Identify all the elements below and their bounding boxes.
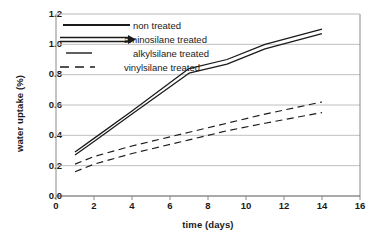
legend-label-aminosilane-treated: aminosilane treated <box>124 34 207 45</box>
legend-swatches <box>60 25 136 67</box>
legend-label-alkylsilane-treated: alkylsilane treated <box>133 48 209 59</box>
x-tick-marks <box>56 196 360 200</box>
legend-label-vinylsilane-treated: vinylsilane treated <box>124 62 200 73</box>
water-uptake-line-chart: water uptake (%) time (days) 1.2 1.0 0.8… <box>0 0 381 241</box>
gridlines <box>56 44 360 165</box>
legend-label-non-treated: non treated <box>133 20 181 31</box>
